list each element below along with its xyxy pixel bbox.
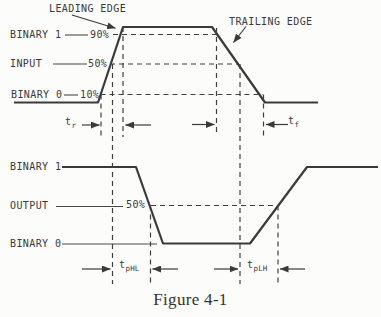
input-label: INPUT — [10, 59, 42, 69]
t-plh-label: tpLH — [247, 260, 268, 273]
trailing-edge-label: TRAILING EDGE — [229, 17, 312, 27]
t-fall-subscript: f — [294, 120, 299, 129]
output-binary1-label: BINARY 1 — [10, 162, 61, 172]
timing-diagram-canvas — [0, 0, 381, 317]
output-binary0-label: BINARY 0 — [10, 239, 61, 249]
leading-edge-callout-arrow — [72, 15, 116, 28]
dimension-arrows — [82, 125, 305, 270]
t-phl-label: tpHL — [119, 260, 140, 273]
output-waveform-line — [62, 167, 378, 244]
output-label: OUTPUT — [10, 201, 49, 211]
input-binary0-label: BINARY 0 — [11, 90, 62, 100]
reference-dashed-lines — [101, 27, 279, 284]
input-level-50-label: 50% — [88, 59, 107, 69]
t-phl-subscript: pHL — [125, 264, 139, 273]
level-90-label: 90% — [90, 30, 109, 40]
t-rise-label: tr — [65, 117, 76, 130]
timing-diagram-figure: LEADING EDGE TRAILING EDGE BINARY 1 90% … — [0, 0, 381, 317]
t-rise-subscript: r — [71, 121, 76, 130]
output-level-50-label: 50% — [126, 200, 145, 210]
trailing-edge-callout-arrow — [234, 27, 247, 43]
input-binary1-label: BINARY 1 — [10, 30, 61, 40]
leading-edge-label: LEADING EDGE — [49, 4, 126, 14]
level-10-label: 10% — [80, 90, 99, 100]
figure-caption: Figure 4-1 — [0, 290, 381, 310]
t-plh-subscript: pLH — [253, 264, 267, 273]
t-fall-label: tf — [288, 116, 299, 129]
